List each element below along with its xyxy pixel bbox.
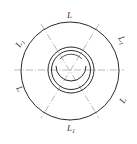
outer-circle <box>21 22 119 120</box>
centerlines <box>14 24 124 118</box>
label-upper-left: L1 <box>13 37 27 50</box>
label-top: L <box>66 10 72 20</box>
label-upper-right: L1 <box>115 33 129 46</box>
label-lower-left: L <box>14 83 26 93</box>
inner-arc-top <box>60 54 82 59</box>
label-lower-right: L <box>117 96 129 106</box>
circular-diagram: L L1 L1 L L L1 <box>0 0 137 144</box>
inner-arc <box>56 66 86 81</box>
label-bottom: L1 <box>66 123 75 134</box>
